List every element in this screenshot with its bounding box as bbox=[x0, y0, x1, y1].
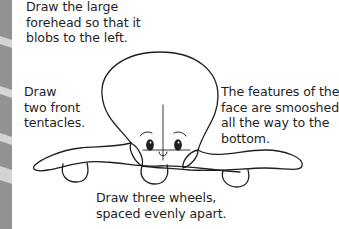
right-eye bbox=[175, 140, 181, 150]
left-brow bbox=[140, 132, 152, 136]
right-eye-highlight bbox=[178, 142, 180, 144]
left-eye-highlight bbox=[150, 142, 152, 144]
left-eye bbox=[147, 140, 153, 150]
left-tentacle-fold bbox=[130, 143, 142, 166]
right-tentacle-fold bbox=[183, 150, 198, 168]
right-tentacle bbox=[142, 150, 302, 171]
wheel-right bbox=[222, 170, 249, 187]
right-brow bbox=[174, 132, 186, 136]
head-outline bbox=[102, 52, 218, 150]
